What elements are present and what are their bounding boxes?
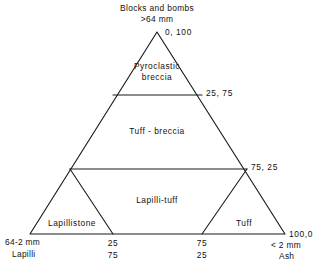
corner-right-name: Ash: [279, 252, 294, 262]
apex-title: Blocks and bombs: [120, 4, 194, 14]
field-pyroclastic-breccia-line1: Pyroclastic: [134, 62, 180, 72]
coordinate-25-75: 25, 75: [206, 89, 233, 99]
field-lapilli-tuff: Lapilli-tuff: [136, 196, 178, 206]
field-tuff-breccia: Tuff - breccia: [129, 127, 184, 137]
apex-size: >64 mm: [141, 15, 174, 25]
corner-right-coordinate: 100,0: [289, 230, 313, 240]
field-pyroclastic-breccia-line2: breccia: [142, 73, 173, 83]
field-tuff: Tuff: [236, 219, 252, 229]
corner-right-size: < 2 mm: [271, 241, 301, 251]
tick-75-top: 75: [197, 239, 208, 249]
corner-left-name: Lapilli: [12, 250, 36, 260]
corner-left-size: 64-2 mm: [5, 238, 40, 248]
tick-25-bottom: 75: [108, 251, 119, 261]
coordinate-75-25: 75, 25: [251, 163, 278, 173]
tick-75-bottom: 25: [197, 251, 208, 261]
field-lapillistone: Lapillistone: [48, 219, 96, 229]
ternary-diagram: Blocks and bombs >64 mm 0, 100 25, 75 75…: [0, 0, 331, 267]
tick-25-top: 25: [108, 239, 119, 249]
apex-coordinate: 0, 100: [165, 28, 192, 38]
